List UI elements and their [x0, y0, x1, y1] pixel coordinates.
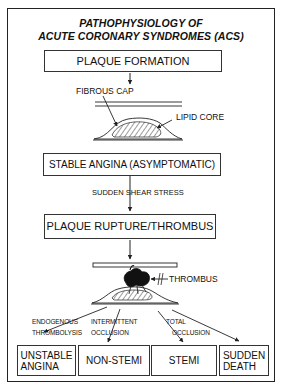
plaque-rupture-box: PLAQUE RUPTURE/THROMBUS: [44, 214, 216, 239]
plaque-formation-box: PLAQUE FORMATION: [44, 50, 222, 72]
plaque-rupture-label: PLAQUE RUPTURE/THROMBUS: [47, 221, 214, 232]
sudden-shear-stress-label: SUDDEN SHEAR STRESS: [92, 188, 184, 198]
stable-angina-label: STABLE ANGINA (ASYMPTOMATIC): [49, 159, 215, 170]
outcome-non-stemi-label: NON-STEMI: [86, 355, 142, 366]
outcome-unstable-angina-box: UNSTABLE ANGINA: [17, 345, 76, 376]
outcome-unstable-angina-line-1: UNSTABLE: [20, 350, 72, 361]
stable-angina-box: STABLE ANGINA (ASYMPTOMATIC): [43, 153, 221, 176]
thrombus-pointer: [151, 273, 168, 285]
outcome-stemi-box: STEMI: [151, 345, 217, 376]
plaque-formation-label: PLAQUE FORMATION: [77, 56, 190, 67]
outcome-non-stemi-box: NON-STEMI: [78, 345, 150, 376]
outcome-unstable-angina-line-2: ANGINA: [20, 361, 72, 372]
outcome-sudden-death-box: SUDDEN DEATH: [219, 345, 269, 376]
outcome-sudden-death-line-2: DEATH: [223, 361, 265, 372]
pathway-endogenous-line-1: ENDOGENOUS: [32, 316, 78, 327]
fibrous-cap-pointer: [103, 96, 117, 126]
lipid-core-label: LIPID CORE: [176, 112, 224, 122]
pathway-intermittent-line-1: INTERMITTENT: [91, 316, 137, 327]
outcome-stemi-label: STEMI: [169, 355, 200, 366]
fibrous-cap-label: FIBROUS CAP: [76, 86, 134, 96]
thrombus-label: THROMBUS: [169, 274, 218, 284]
outcome-sudden-death-line-1: SUDDEN: [223, 350, 265, 361]
pathway-total-line-1: TOTAL: [166, 316, 186, 327]
pathway-intermittent-line-2: OCCLUSION: [91, 327, 129, 338]
pathway-total-line-2: OCCLUSION: [172, 327, 210, 338]
ruptured-plaque-illustration: [91, 263, 179, 304]
pathway-endogenous-line-2: THROMBOLYSIS: [32, 327, 82, 338]
